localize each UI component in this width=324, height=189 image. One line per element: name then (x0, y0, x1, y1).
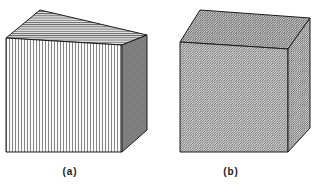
cube-b-front-face (180, 42, 288, 152)
cube-a-front-face (6, 38, 122, 152)
cube-b (180, 10, 310, 152)
cube-a (6, 10, 147, 152)
cube-figure-svg (0, 0, 324, 189)
cube-a-right-face (122, 35, 147, 152)
figure-container: (a) (b) (0, 0, 324, 189)
